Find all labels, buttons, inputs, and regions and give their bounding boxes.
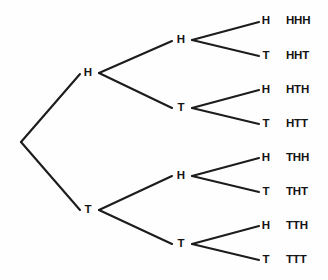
- branch-lines-group: [21, 22, 259, 260]
- edge-root-t: [21, 142, 80, 210]
- level2-th: H: [177, 169, 185, 181]
- edge-t-th: [99, 176, 172, 210]
- level2-tt: T: [177, 237, 184, 249]
- edge-root-h: [21, 74, 80, 142]
- leaf-tht-outcome: THT: [286, 185, 308, 197]
- edge-h-ht: [99, 73, 172, 108]
- edge-t-tt: [99, 210, 172, 244]
- tree-diagram-canvas: HTHTHT HHHHTHHTHHTHTHTTHTHHTTHTHTTHTTTT: [0, 0, 328, 280]
- tree-nodes-group: HTHTHT: [84, 33, 185, 249]
- leaf-tht-flip: T: [262, 185, 269, 197]
- leaf-thh-flip: H: [262, 151, 270, 163]
- edge-th-tht: [192, 176, 259, 192]
- leaf-hht-outcome: HHT: [286, 49, 309, 61]
- edge-ht-htt: [192, 108, 259, 124]
- leaf-thh-outcome: THH: [286, 151, 309, 163]
- leaf-hth-flip: H: [262, 83, 270, 95]
- leaf-htt-flip: T: [262, 117, 269, 129]
- level1-t: T: [84, 203, 91, 215]
- edge-ht-hth: [192, 90, 259, 108]
- edge-tt-tth: [192, 226, 259, 244]
- leaf-hhh-flip: H: [262, 14, 270, 26]
- level2-hh: H: [177, 33, 185, 45]
- leaf-hht-flip: T: [262, 49, 269, 61]
- probability-tree-figure: HTHTHT HHHHTHHTHHTHTHTTHTHHTTHTHTTHTTTT: [0, 0, 328, 280]
- leaf-ttt-outcome: TTT: [286, 253, 307, 265]
- edge-th-thh: [192, 158, 259, 176]
- edge-h-hh: [99, 41, 172, 73]
- edge-tt-ttt: [192, 244, 259, 260]
- leaf-ttt-flip: T: [262, 253, 269, 265]
- edge-hh-hht: [192, 40, 259, 56]
- leaf-tth-flip: H: [262, 219, 270, 231]
- leaf-hhh-outcome: HHH: [286, 14, 310, 26]
- edge-hh-hhh: [192, 22, 259, 40]
- leaf-tth-outcome: TTH: [286, 219, 308, 231]
- tree-leaves-group: HHHHTHHTHHTHTHTTHTHHTTHTHTTHTTTT: [262, 14, 310, 265]
- level2-ht: T: [177, 101, 184, 113]
- leaf-hth-outcome: HTH: [286, 83, 309, 95]
- level1-h: H: [84, 66, 92, 78]
- leaf-htt-outcome: HTT: [286, 117, 308, 129]
